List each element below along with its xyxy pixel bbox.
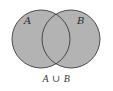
diagram-caption: A ∪ B (0, 73, 113, 84)
set-b-label: B (76, 15, 84, 26)
set-a-label: A (23, 15, 31, 26)
